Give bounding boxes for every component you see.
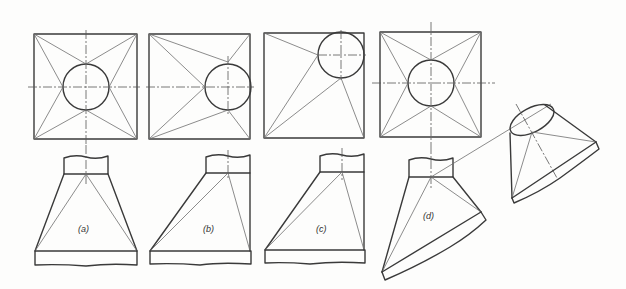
- panel-d-auxiliary-view: [505, 98, 599, 203]
- panel-a-top-view: [28, 30, 140, 144]
- panel-d-front-view: [382, 104, 551, 280]
- panel-a-front-view: [35, 145, 137, 266]
- drawing-canvas: (a) (b) (c) (d): [0, 0, 626, 289]
- panel-d-top-view: [372, 22, 495, 145]
- panel-b-top-view: [146, 34, 254, 139]
- panel-b-label: (b): [203, 224, 214, 234]
- transition-pieces-drawing: [0, 0, 626, 289]
- panel-a-label: (a): [78, 224, 89, 234]
- panel-b-front-view: [150, 150, 251, 265]
- panel-c-top-view: [264, 30, 366, 138]
- panel-c-front-view: [265, 148, 365, 264]
- panel-c-label: (c): [316, 224, 327, 234]
- panel-d-label: (d): [423, 211, 434, 221]
